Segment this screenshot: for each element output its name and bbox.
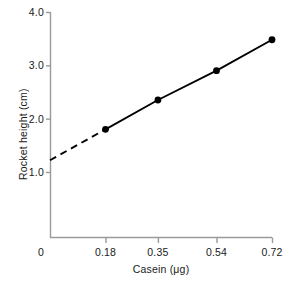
x-tick-label: 0.35 bbox=[147, 246, 168, 258]
x-tick-label: 0 bbox=[38, 246, 44, 258]
x-axis-title: Casein (μg) bbox=[133, 263, 190, 275]
y-tick-label: 2.0 bbox=[29, 113, 44, 125]
x-tick-label: 0.54 bbox=[206, 246, 227, 258]
extrapolated-dashed-line bbox=[50, 129, 106, 160]
axis-spines bbox=[50, 12, 272, 238]
chart-figure: 4.03.02.01.0 00.180.350.540.72 Rocket he… bbox=[0, 0, 293, 284]
data-point-marker bbox=[213, 67, 220, 74]
x-axis-ticks bbox=[106, 238, 273, 244]
data-point-marker bbox=[155, 97, 162, 104]
y-tick-label: 1.0 bbox=[29, 166, 44, 178]
y-axis-title: Rocket height (cm) bbox=[17, 88, 29, 180]
x-tick-label: 0.18 bbox=[95, 246, 116, 258]
data-point-marker bbox=[269, 36, 276, 43]
plot-canvas bbox=[0, 0, 293, 284]
y-tick-label: 4.0 bbox=[29, 6, 44, 18]
y-tick-label: 3.0 bbox=[29, 59, 44, 71]
data-point-marker bbox=[102, 126, 109, 133]
data-line bbox=[106, 40, 273, 130]
x-tick-label: 0.72 bbox=[261, 246, 282, 258]
